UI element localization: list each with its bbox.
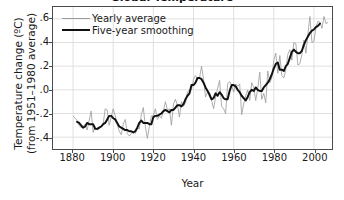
temperature-chart-figure: Global Temperature Temperature change (º…	[0, 0, 344, 200]
x-axis-tick-label: 2000	[302, 152, 327, 164]
y-axis-tick-label: -.2	[3, 109, 49, 119]
y-axis-tick-label: .2	[3, 61, 49, 71]
y-axis-tick-mark	[49, 42, 52, 43]
y-axis-tick-labels: .6.4.2.0-.2-.4	[0, 0, 49, 200]
y-axis-tick-label: -.4	[3, 133, 49, 143]
legend-item-yearly-average: Yearly average	[62, 13, 212, 24]
y-axis-tick-mark	[49, 66, 52, 67]
x-axis-tick-label: 1920	[140, 152, 165, 164]
legend-swatch-five-year-smoothing	[62, 29, 90, 31]
x-axis-tick-mark	[72, 150, 73, 153]
legend-swatch-yearly-average	[62, 18, 90, 19]
legend-item-five-year-smoothing: Five-year smoothing	[62, 25, 212, 36]
y-axis-tick-label: .6	[3, 13, 49, 23]
y-axis-tick-label: .4	[3, 37, 49, 47]
x-axis-tick-label: 1980	[262, 152, 287, 164]
x-axis-tick-label: 1900	[100, 152, 125, 164]
y-axis-tick-mark	[49, 114, 52, 115]
y-axis-tick-mark	[49, 138, 52, 139]
chart-title: Global Temperature	[0, 0, 344, 4]
y-axis-tick-mark	[49, 18, 52, 19]
chart-legend: Yearly average Five-year smoothing	[62, 13, 212, 37]
x-axis-tick-label: 1880	[59, 152, 84, 164]
x-axis-tick-mark	[315, 150, 316, 153]
x-axis-title: Year	[52, 177, 333, 189]
x-axis-tick-labels: 1880190019201940196019802000	[0, 152, 344, 166]
x-axis-tick-mark	[113, 150, 114, 153]
legend-label-five-year-smoothing: Five-year smoothing	[92, 25, 194, 36]
y-axis-tick-label: .0	[3, 85, 49, 95]
x-axis-tick-mark	[153, 150, 154, 153]
x-axis-tick-label: 1940	[181, 152, 206, 164]
legend-label-yearly-average: Yearly average	[92, 13, 166, 24]
x-axis-tick-label: 1960	[221, 152, 246, 164]
x-axis-tick-mark	[274, 150, 275, 153]
x-axis-tick-mark	[234, 150, 235, 153]
x-axis-tick-mark	[194, 150, 195, 153]
y-axis-tick-mark	[49, 90, 52, 91]
